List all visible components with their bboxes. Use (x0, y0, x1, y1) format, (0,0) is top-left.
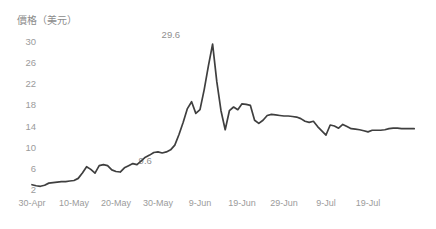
price-line-series (32, 44, 414, 186)
plot-area (0, 0, 436, 229)
line-chart: 價格（美元） 30262218141062 30-Apr10-May20-May… (0, 0, 436, 229)
